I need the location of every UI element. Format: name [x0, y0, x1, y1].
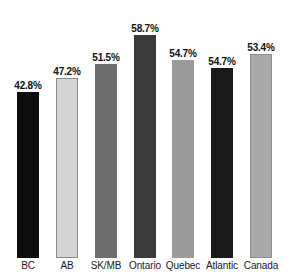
bar-rect-canada[interactable] [250, 54, 272, 258]
bar-rect-atlantic[interactable] [211, 68, 233, 258]
cat-label-skmb: SK/MB [91, 260, 122, 271]
bar-value-ontario: 58.7% [131, 23, 158, 34]
bar-chart: 42.8% 47.2% 51.5% 58.7% 54.7% 54.7% 53.4… [0, 0, 294, 280]
bar-rect-quebec[interactable] [172, 60, 194, 258]
cat-label-bc: BC [21, 260, 35, 271]
bar-rect-ontario[interactable] [134, 35, 156, 258]
plot-area: 42.8% 47.2% 51.5% 58.7% 54.7% 54.7% 53.4… [0, 0, 294, 258]
bar-rect-ab[interactable] [56, 78, 78, 258]
cat-label-ontario: Ontario [129, 260, 161, 271]
bar-value-canada: 53.4% [247, 42, 274, 53]
bar-value-ab: 47.2% [53, 66, 80, 77]
cat-label-canada: Canada [244, 260, 278, 271]
bar-value-quebec: 54.7% [169, 48, 196, 59]
bar-rect-skmb[interactable] [95, 64, 117, 258]
bar-value-skmb: 51.5% [92, 52, 119, 63]
cat-label-atlantic: Atlantic [206, 260, 238, 271]
bar-value-bc: 42.8% [14, 80, 41, 91]
bar-value-atlantic: 54.7% [208, 56, 235, 67]
cat-label-quebec: Quebec [166, 260, 200, 271]
cat-label-ab: AB [60, 260, 73, 271]
category-axis: BC AB SK/MB Ontario Quebec Atlantic Cana… [0, 258, 294, 280]
bar-rect-bc[interactable] [17, 92, 39, 258]
